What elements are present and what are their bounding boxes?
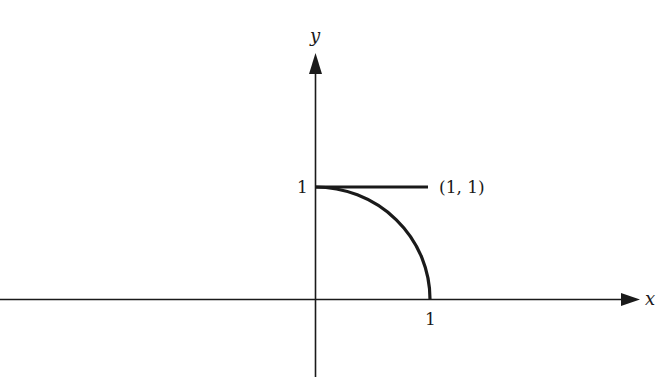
point-label: (1, 1) <box>439 177 485 197</box>
y-axis-arrow-icon <box>309 53 322 74</box>
y-axis-label: y <box>309 25 321 46</box>
y-tick-1: 1 <box>297 177 308 197</box>
diagram: y x 1 1 (1, 1) <box>0 0 659 384</box>
x-axis-arrow-icon <box>621 293 640 306</box>
x-axis-label: x <box>645 288 655 309</box>
x-tick-1: 1 <box>425 309 436 329</box>
quarter-circle-curve <box>315 187 430 299</box>
